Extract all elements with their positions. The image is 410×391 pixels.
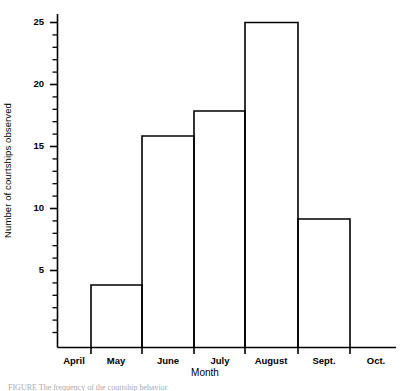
x-tick-label-july: July [198, 355, 242, 366]
x-tick-label-may: May [94, 355, 138, 366]
x-tick-label-oct: Oct. [354, 355, 398, 366]
figure-caption: FIGURE The frequency of the courtship be… [8, 383, 408, 391]
histogram-plot [0, 0, 410, 391]
x-axis-title: Month [0, 367, 410, 378]
x-tick-label-sept: Sept. [302, 355, 346, 366]
y-tick-label-15: 15 [18, 140, 44, 151]
plot-background [0, 0, 410, 391]
y-tick-label-20: 20 [18, 78, 44, 89]
y-tick-label-5: 5 [18, 264, 44, 275]
x-tick-label-june: June [146, 355, 190, 366]
x-tick-label-april: April [52, 355, 96, 366]
y-tick-label-10: 10 [18, 202, 44, 213]
figure-container: Number of courtships observed 25 20 15 1… [0, 0, 410, 391]
x-tick-label-august: August [245, 355, 297, 366]
y-tick-label-25: 25 [18, 16, 44, 27]
